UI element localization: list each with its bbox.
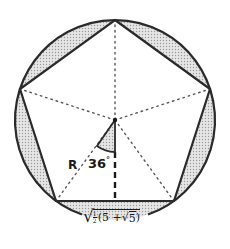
fraction-half: 1 2 xyxy=(93,211,97,224)
center-point xyxy=(113,118,117,122)
angle-value: 36 xyxy=(88,156,106,171)
angle-label: 36° xyxy=(88,156,110,171)
angle-unit: ° xyxy=(106,156,110,165)
fraction-denominator: 2 xyxy=(93,218,97,224)
side-length-formula: √ 1 2 (5 + √ 5 ) xyxy=(83,208,140,225)
radius-label: R xyxy=(68,158,78,172)
inner-sqrt-value: 5 xyxy=(129,211,136,225)
radicand: 1 2 (5 + √ 5 ) xyxy=(93,209,140,225)
formula-close: ) xyxy=(136,211,140,224)
inner-sqrt-symbol: √ xyxy=(122,211,129,224)
formula-open: (5 + xyxy=(98,211,122,224)
